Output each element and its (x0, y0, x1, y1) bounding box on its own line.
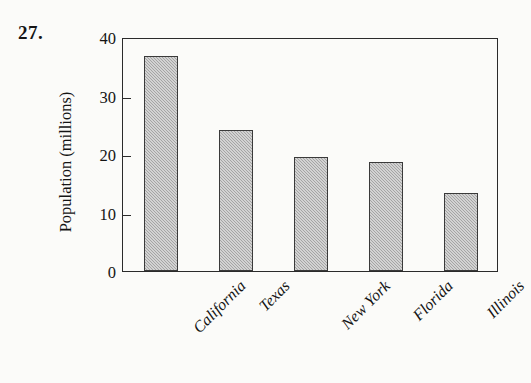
x-label-illinois: Illinois (484, 277, 529, 322)
bar-illinois (444, 193, 478, 271)
x-label-california: California (189, 277, 249, 337)
y-tick-mark (123, 98, 131, 99)
y-tick-label: 0 (108, 263, 116, 283)
y-tick-label: 10 (100, 205, 117, 225)
bar-california (144, 56, 178, 271)
y-tick-label: 20 (100, 146, 117, 166)
y-axis-title: Population (millions) (56, 55, 76, 270)
y-tick-label: 30 (100, 88, 117, 108)
plot-area: 010203040 (122, 38, 498, 272)
y-tick-mark (123, 215, 131, 216)
x-label-florida: Florida (410, 277, 457, 324)
x-label-texas: Texas (255, 277, 293, 315)
bar-florida (369, 162, 403, 271)
y-tick-label: 40 (100, 29, 117, 49)
bar-chart-figure: 27. Population (millions) 010203040 Cali… (0, 0, 531, 383)
bar-texas (219, 130, 253, 271)
problem-number: 27. (18, 22, 43, 44)
x-label-new-york: New York (338, 277, 394, 333)
bar-new-york (294, 157, 328, 271)
y-tick-mark (123, 156, 131, 157)
